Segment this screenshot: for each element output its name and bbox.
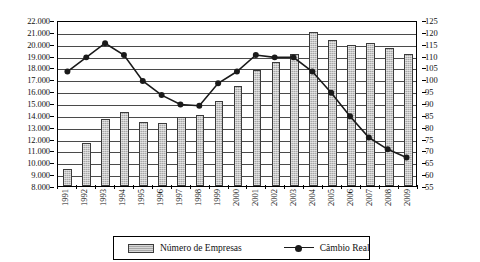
y-left-tick-mark [50,45,54,46]
x-axis-tick-mark [95,185,96,189]
line-point-2005 [328,90,334,96]
x-axis-tick-label: 1998 [194,189,203,206]
x-axis-tick-label: 1993 [99,189,108,206]
y-right-tick-mark [422,21,426,22]
x-axis-tick-label: 1992 [80,189,89,206]
line-point-1994 [121,52,127,58]
line-point-2007 [366,135,372,141]
line-point-2006 [347,113,353,119]
y-left-tick-mark [50,104,54,105]
y-right-tick-mark [422,140,426,141]
line-point-1998 [196,103,202,109]
x-axis-tick-mark [360,185,361,189]
plot-area [57,21,417,187]
x-axis-tick-mark [228,185,229,189]
y-right-tick-label: 120 [425,29,438,38]
x-axis-tick-label: 1999 [213,189,222,206]
y-right-tick-label: 95 [425,88,434,97]
y-axis-left: 8.0009.00010.00011.00012.00013.00014.000… [0,21,54,187]
x-axis-tick-mark [284,185,285,189]
x-axis-tick-mark [152,185,153,189]
x-axis-tick-label: 2006 [346,189,355,206]
bar-swatch-icon [128,244,154,253]
y-right-tick-label: 65 [425,159,434,168]
y-left-tick-mark [50,21,54,22]
line-point-2000 [234,69,240,75]
y-right-tick-label: 105 [425,64,438,73]
y-left-tick-label: 11.000 [28,147,50,156]
y-left-tick-label: 21.000 [27,29,50,38]
y-right-tick-mark [422,151,426,152]
y-right-tick-mark [422,163,426,164]
line-point-2004 [309,69,315,75]
y-right-tick-label: 115 [425,40,437,49]
y-left-tick-label: 9.000 [31,171,50,180]
line-point-1991 [64,69,70,75]
line-point-2008 [385,146,391,152]
y-left-tick-label: 14.000 [27,112,50,121]
y-left-tick-mark [50,57,54,58]
line-series [58,22,416,187]
line-point-1995 [140,78,146,84]
x-axis-tick-label: 2009 [403,189,412,206]
y-right-tick-mark [422,187,426,188]
y-right-tick-mark [422,92,426,93]
y-left-tick-mark [50,140,54,141]
legend-label-cambio-real: Câmbio Real [320,243,370,253]
x-axis-tick-mark [171,185,172,189]
y-left-tick-mark [50,92,54,93]
x-axis-tick-mark [398,185,399,189]
x-axis-tick-label: 2008 [384,189,393,206]
y-right-tick-label: 90 [425,100,434,109]
y-left-tick-label: 22.000 [27,17,50,26]
y-left-tick-mark [50,116,54,117]
chart-page: 8.0009.00010.00011.00012.00013.00014.000… [0,0,480,262]
x-axis-tick-mark [133,185,134,189]
x-axis-tick-label: 1997 [175,189,184,206]
x-axis-tick-label: 2007 [365,189,374,206]
y-left-tick-label: 12.000 [27,135,50,144]
y-right-tick-label: 125 [425,17,438,26]
y-left-tick-label: 18.000 [27,64,50,73]
y-right-tick-label: 100 [425,76,438,85]
legend-item-cambio-real: Câmbio Real [284,243,370,253]
line-point-1999 [215,80,221,86]
x-axis-tick-mark [57,185,58,189]
cambio-real-line [67,43,406,157]
x-axis-tick-label: 1991 [61,189,70,206]
y-left-tick-mark [50,175,54,176]
x-axis-tick-mark [114,185,115,189]
y-left-tick-label: 17.000 [27,76,50,85]
x-axis-tick-mark [246,185,247,189]
y-right-tick-mark [422,68,426,69]
y-left-tick-mark [50,187,54,188]
y-left-tick-label: 15.000 [27,100,50,109]
y-left-tick-label: 10.000 [27,159,50,168]
x-axis-tick-mark [190,185,191,189]
x-axis-tick-label: 1996 [156,189,165,206]
y-right-tick-mark [422,175,426,176]
legend-label-numero-de-empresas: Número de Empresas [160,243,242,253]
y-left-tick-label: 13.000 [27,123,50,132]
y-right-tick-label: 60 [425,171,434,180]
line-point-1996 [159,92,165,98]
y-left-tick-mark [50,33,54,34]
x-axis-labels: 1991199219931994199519961997199819992000… [57,189,417,229]
y-left-tick-label: 8.000 [31,183,50,192]
y-left-tick-mark [50,163,54,164]
y-right-tick-mark [422,104,426,105]
x-axis-tick-label: 2005 [327,189,336,206]
line-point-1993 [102,40,108,46]
x-axis-tick-label: 2004 [308,189,317,206]
y-right-tick-label: 55 [425,183,434,192]
x-axis-tick-label: 1994 [118,189,127,206]
x-axis-tick-mark [417,185,418,189]
line-marker-icon [284,243,314,253]
line-point-1997 [177,102,183,108]
x-axis-tick-mark [265,185,266,189]
y-left-tick-label: 16.000 [27,88,50,97]
y-right-tick-mark [422,80,426,81]
line-point-2003 [291,54,297,60]
x-axis-tick-label: 2001 [251,189,260,206]
y-right-tick-label: 85 [425,112,434,121]
